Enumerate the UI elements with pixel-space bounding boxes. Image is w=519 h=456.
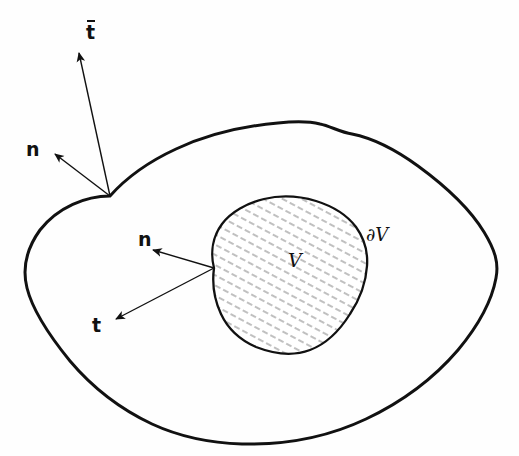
traction-outer-arrow bbox=[79, 53, 110, 196]
label-boundary: ∂V bbox=[366, 226, 388, 244]
inner-volume-hatch bbox=[212, 197, 367, 354]
label-traction-outer-text: t bbox=[86, 21, 95, 43]
normal-inner-arrow bbox=[153, 250, 214, 268]
figure-vector-layer bbox=[0, 0, 519, 456]
label-traction-outer: t bbox=[86, 20, 95, 42]
label-volume: V bbox=[288, 251, 302, 270]
traction-inner-arrow bbox=[116, 268, 214, 319]
label-traction-inner: t bbox=[92, 316, 101, 335]
overbar-group: t bbox=[86, 20, 95, 42]
label-normal-outer: n bbox=[26, 140, 40, 159]
figure-canvas: t n n t V ∂V bbox=[0, 0, 519, 456]
label-normal-inner: n bbox=[138, 230, 152, 249]
